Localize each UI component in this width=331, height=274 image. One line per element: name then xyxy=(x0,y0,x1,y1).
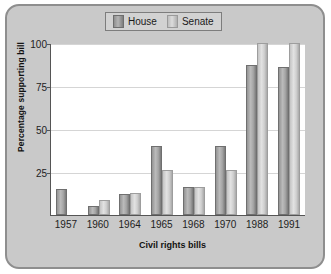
legend-entry-senate: Senate xyxy=(167,15,214,28)
bar-group xyxy=(278,44,300,215)
bar-house-1964 xyxy=(119,194,130,215)
x-tick-label: 1960 xyxy=(87,219,109,230)
bar-group xyxy=(183,44,205,215)
bar-series-container xyxy=(51,44,305,215)
legend-entry-house: House xyxy=(113,15,157,28)
bar-group xyxy=(151,44,173,215)
legend-label-senate: Senate xyxy=(182,17,214,27)
bar-house-1988 xyxy=(246,65,257,215)
x-tick-label: 1964 xyxy=(119,219,141,230)
x-tick-label: 1957 xyxy=(55,219,77,230)
bar-senate-1960 xyxy=(99,200,110,215)
bar-group xyxy=(246,44,268,215)
y-tick-label: 50 xyxy=(36,125,47,136)
bar-house-1965 xyxy=(151,146,162,215)
chart-figure: House Senate Percentage supporting bill … xyxy=(0,0,331,274)
legend-swatch-senate-icon xyxy=(167,15,178,28)
y-tick-label: 25 xyxy=(36,168,47,179)
bar-senate-1991 xyxy=(289,43,300,215)
bar-house-1957 xyxy=(56,189,67,215)
bar-house-1970 xyxy=(215,146,226,215)
x-tick-label: 1968 xyxy=(182,219,204,230)
bar-senate-1968 xyxy=(194,187,205,215)
y-tick-label: 75 xyxy=(36,82,47,93)
bar-group xyxy=(215,44,237,215)
x-axis-title: Civil rights bills xyxy=(45,240,300,250)
bar-group xyxy=(119,44,141,215)
legend-swatch-house-icon xyxy=(113,15,124,28)
bar-senate-1965 xyxy=(162,170,173,215)
legend-label-house: House xyxy=(128,17,157,27)
bar-group xyxy=(56,44,78,215)
bar-house-1991 xyxy=(278,67,289,215)
x-tick-label: 1970 xyxy=(214,219,236,230)
chart-legend: House Senate xyxy=(105,12,222,31)
x-tick-label: 1991 xyxy=(278,219,300,230)
bar-senate-1970 xyxy=(226,170,237,215)
y-tick-label: 100 xyxy=(30,39,47,50)
bar-group xyxy=(88,44,110,215)
bar-house-1960 xyxy=(88,206,99,215)
x-tick-label: 1965 xyxy=(150,219,172,230)
x-axis-tick-labels: 19571960196419651968197019881991 xyxy=(50,219,305,230)
y-axis-title: Percentage supporting bill xyxy=(16,32,26,162)
x-tick-label: 1988 xyxy=(246,219,268,230)
bar-house-1968 xyxy=(183,187,194,215)
bar-senate-1988 xyxy=(257,43,268,215)
plot-wrapper: 255075100 xyxy=(50,44,305,216)
bar-senate-1964 xyxy=(130,193,141,215)
plot-area: 255075100 xyxy=(50,44,305,216)
